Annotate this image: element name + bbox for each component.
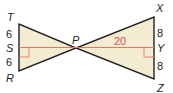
measure-xy: 8 xyxy=(157,27,163,39)
label-y: Y xyxy=(157,42,165,54)
measure-py: 20 xyxy=(114,35,126,47)
label-s: S xyxy=(6,42,14,54)
label-z: Z xyxy=(156,82,165,93)
measure-sr: 6 xyxy=(6,56,12,68)
label-t: T xyxy=(7,11,15,23)
measure-ts: 6 xyxy=(6,28,12,40)
geometry-diagram: T S R P X Y Z 6 6 8 8 20 xyxy=(0,0,173,93)
label-r: R xyxy=(6,72,14,84)
label-x: X xyxy=(155,2,164,14)
measure-yz: 8 xyxy=(157,60,163,72)
label-p: P xyxy=(72,34,80,46)
